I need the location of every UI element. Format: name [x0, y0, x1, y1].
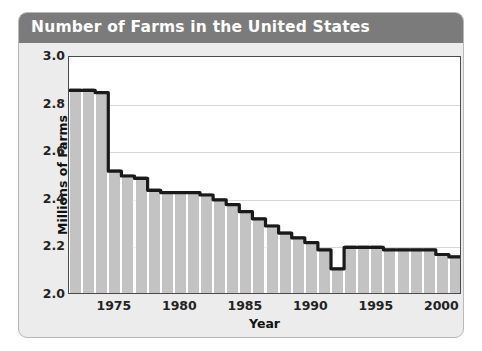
y-tick-label: 2.8 — [31, 96, 65, 111]
x-tick-label: 1985 — [227, 298, 262, 313]
plot-area — [68, 56, 461, 294]
chart-title-bar: Number of Farms in the United States — [19, 13, 463, 43]
x-tick-label: 1980 — [162, 298, 197, 313]
chart-card: Number of Farms in the United States Mil… — [18, 12, 464, 338]
x-axis-label: Year — [68, 316, 461, 331]
y-tick-label: 3.0 — [31, 48, 65, 63]
x-tick-label: 2000 — [424, 298, 459, 313]
y-tick-label: 2.4 — [31, 191, 65, 206]
y-tick-label: 2.6 — [31, 143, 65, 158]
x-tick-label: 1995 — [358, 298, 393, 313]
y-axis-ticks: 3.02.82.62.42.22.0 — [25, 13, 65, 337]
y-tick-label: 2.0 — [31, 286, 65, 301]
y-tick-label: 2.2 — [31, 238, 65, 253]
x-tick-label: 1990 — [293, 298, 328, 313]
chart-title: Number of Farms in the United States — [31, 18, 370, 36]
trend-line — [69, 57, 460, 293]
x-tick-label: 1975 — [96, 298, 131, 313]
